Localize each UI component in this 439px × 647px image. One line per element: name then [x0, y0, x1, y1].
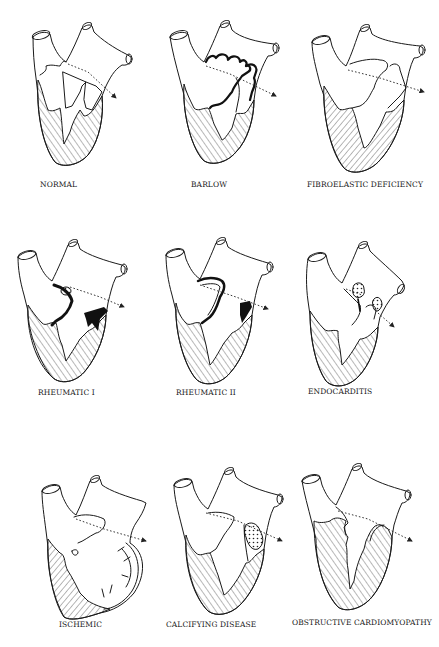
panel-label: BARLOW — [191, 180, 227, 189]
panel-label: RHEUMATIC I — [38, 388, 95, 397]
myocardium-hatch — [38, 80, 103, 165]
myocardium-hatch — [48, 539, 110, 619]
panel-fibroelastic: FIBROELASTIC DEFICIENCY — [280, 0, 439, 215]
rheumatic1-heart-drawing — [0, 215, 146, 395]
billowing-leaflet — [206, 54, 250, 108]
panel-ischemic: ISCHEMIC — [0, 425, 146, 647]
panel-obstructive: OBSTRUCTIVE CARDIOMYOPATHY — [280, 425, 439, 647]
panel-label: ISCHEMIC — [59, 620, 102, 629]
panel-label: FIBROELASTIC DEFICIENCY — [307, 180, 423, 189]
calcification — [245, 523, 263, 549]
panel-barlow: BARLOW — [140, 0, 290, 215]
panel-label: NORMAL — [40, 180, 77, 189]
obstructive-heart-drawing — [280, 425, 439, 625]
panel-label: ENDOCARDITIS — [308, 387, 372, 396]
panel-normal: NORMAL — [0, 0, 146, 215]
panel-label: RHEUMATIC II — [176, 388, 236, 397]
myocardium-hatch — [324, 86, 404, 172]
panel-label: CALCIFYING DISEASE — [166, 620, 256, 629]
panel-rheumatic2: RHEUMATIC II — [140, 215, 290, 425]
vegetation — [353, 283, 365, 298]
panel-rheumatic1: RHEUMATIC I — [0, 215, 146, 425]
calcifying-heart-drawing — [140, 425, 290, 625]
hypertrophic-myocardium-hatch — [314, 518, 392, 610]
endocarditis-heart-drawing — [280, 215, 439, 395]
myocardium-hatch — [310, 311, 378, 386]
barlow-heart-drawing — [140, 0, 290, 180]
panel-label: OBSTRUCTIVE CARDIOMYOPATHY — [292, 618, 432, 627]
ischemic-heart-drawing — [0, 425, 146, 625]
panel-calcifying: CALCIFYING DISEASE — [140, 425, 290, 647]
fibroelastic-heart-drawing — [280, 0, 439, 180]
commissural-fusion — [61, 287, 71, 295]
panel-endocarditis: ENDOCARDITIS — [280, 215, 439, 425]
dilated-annulus — [104, 543, 138, 609]
rheumatic2-heart-drawing — [140, 215, 290, 395]
vegetation — [373, 297, 383, 311]
normal-heart-drawing — [0, 0, 146, 180]
myocardium-hatch — [184, 84, 254, 163]
